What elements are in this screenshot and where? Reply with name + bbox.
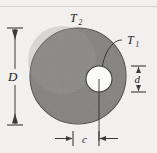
cross-section-diagram: T 2 T 1 D	[0, 0, 157, 153]
figure-container: T 2 T 1 D	[0, 0, 157, 153]
label-T1-subscript: 1	[136, 40, 140, 49]
disk-highlight	[28, 26, 96, 94]
dimension-d-label: d	[135, 73, 141, 85]
label-T2-subscript: 2	[79, 18, 83, 27]
dimension-c-label: c	[82, 133, 87, 145]
dimension-D-label: D	[7, 69, 18, 84]
